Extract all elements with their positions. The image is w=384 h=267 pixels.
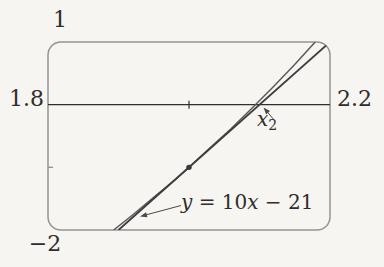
window-xmax-label: 2.2 <box>337 88 372 110</box>
x2-annotation-label: x2 <box>257 109 277 132</box>
eq-middle: = 10 <box>192 190 247 214</box>
window-ymax-label: 1 <box>48 9 72 31</box>
window-ymin-label: −2 <box>26 233 64 255</box>
window-xmin-label: 1.8 <box>8 88 44 110</box>
equation-arrow <box>144 206 181 216</box>
equation-arrow-head <box>140 212 147 217</box>
plot-svg <box>0 0 384 267</box>
point-marker <box>186 165 191 170</box>
eq-x-variable: x <box>247 190 258 214</box>
newton-method-figure: 1 1.8 2.2 −2 x2 y = 10x − 21 <box>0 0 384 267</box>
x2-subscript: 2 <box>268 117 277 133</box>
eq-y-variable: y <box>181 190 192 214</box>
eq-tail: − 21 <box>259 190 314 214</box>
tangent-equation-label: y = 10x − 21 <box>181 192 313 212</box>
x2-variable: x <box>257 107 268 131</box>
